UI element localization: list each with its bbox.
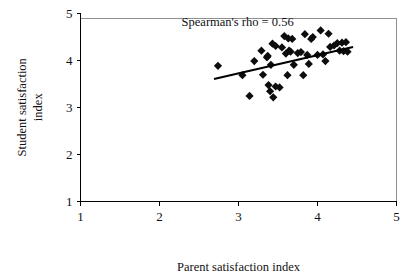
- x-tick-label-4: 4: [314, 209, 321, 224]
- data-point: [283, 71, 291, 79]
- scatter-plot-figure: 1234512345 Spearman's rho = 0.56 Parent …: [0, 0, 415, 279]
- y-tick-label-2: 2: [66, 147, 73, 162]
- x-axis-title: Parent satisfaction index: [177, 260, 301, 274]
- chart-annotations: Spearman's rho = 0.56: [182, 15, 294, 29]
- data-point: [264, 81, 272, 89]
- axis-tick-labels: 1234512345: [66, 6, 400, 224]
- data-point: [305, 60, 313, 68]
- data-point: [250, 57, 258, 65]
- data-point: [278, 43, 286, 51]
- y-axis-title-line1: Student satisfaction: [15, 57, 29, 156]
- data-point: [257, 47, 265, 55]
- chart-canvas: 1234512345 Spearman's rho = 0.56 Parent …: [0, 0, 415, 279]
- y-axis-title-line2: index: [31, 93, 45, 122]
- y-tick-label-1: 1: [66, 194, 73, 209]
- y-tick-label-5: 5: [66, 6, 73, 21]
- x-tick-label-1: 1: [77, 209, 84, 224]
- x-tick-label-3: 3: [235, 209, 242, 224]
- plot-frame: [81, 13, 397, 202]
- trend-line-segment: [214, 47, 353, 79]
- trend-line: [214, 47, 353, 79]
- data-point: [324, 30, 332, 38]
- y-tick-label-3: 3: [66, 100, 73, 115]
- data-point: [299, 71, 307, 79]
- data-point: [301, 30, 309, 38]
- x-tick-label-2: 2: [156, 209, 163, 224]
- data-point: [321, 57, 329, 65]
- y-tick-label-4: 4: [66, 53, 73, 68]
- data-point: [259, 71, 267, 79]
- x-tick-label-5: 5: [393, 209, 400, 224]
- data-point: [317, 26, 325, 34]
- axis-titles: Parent satisfaction indexStudent satisfa…: [15, 57, 301, 274]
- data-point: [245, 92, 253, 100]
- data-point: [214, 62, 222, 70]
- annotation-spearman-rho: Spearman's rho = 0.56: [182, 15, 294, 29]
